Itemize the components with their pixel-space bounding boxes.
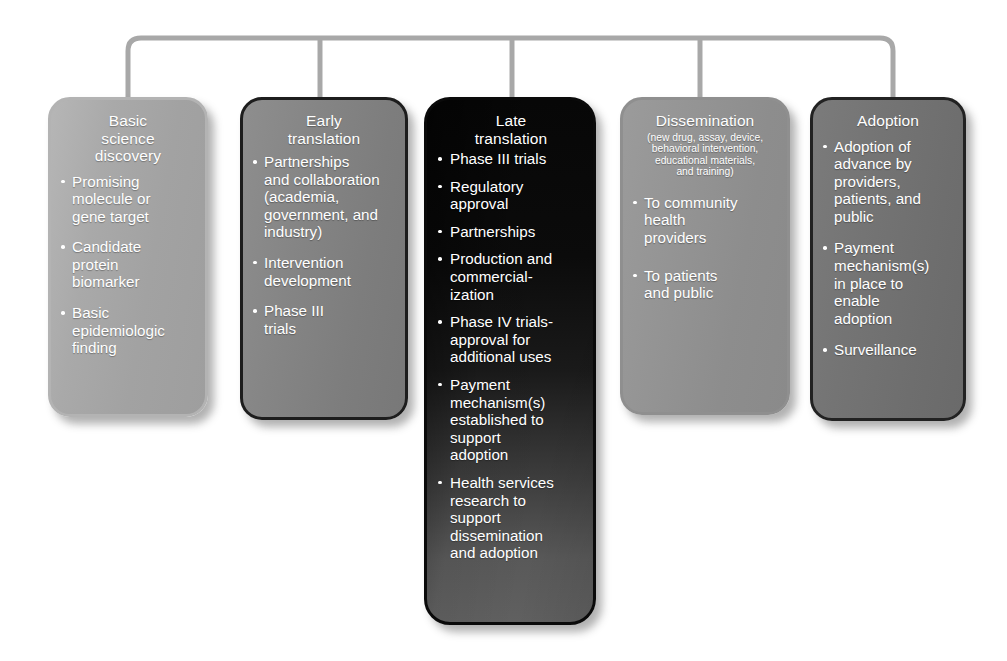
stage-box-late-translation[interactable]: Latetranslation Phase III trials Regulat… [424, 97, 596, 625]
list-item: Paymentmechanism(s)established tosupport… [437, 376, 585, 464]
bullet-dot-icon [438, 185, 442, 189]
list-item: To patientsand public [632, 267, 778, 302]
bullet-text: To communityhealthproviders [644, 194, 738, 246]
stage-title-basic: Basicsciencediscovery [60, 112, 196, 165]
bullet-dot-icon [823, 348, 827, 352]
bullet-dot-icon [823, 145, 827, 149]
diagram-canvas: Basicsciencediscovery Promisingmolecule … [0, 0, 1007, 661]
stage-box-early-translation[interactable]: Earlytranslation Partnershipsand collabo… [240, 97, 408, 420]
list-item: Partnerships [437, 223, 585, 241]
stage-bullets-adoption: Adoption ofadvance byproviders,patients,… [822, 138, 954, 360]
bullet-dot-icon [438, 230, 442, 234]
stage-bullets-dissemination: To communityhealthproviders To patientsa… [632, 194, 778, 302]
list-item: Candidateproteinbiomarker [60, 238, 196, 291]
bullet-dot-icon [438, 320, 442, 324]
stage-box-adoption[interactable]: Adoption Adoption ofadvance byproviders,… [810, 97, 966, 421]
list-item: Surveillance [822, 341, 954, 359]
list-item: Production andcommercial-ization [437, 250, 585, 303]
stage-box-basic-science-discovery[interactable]: Basicsciencediscovery Promisingmolecule … [48, 97, 208, 417]
stage-bullets-basic: Promisingmolecule orgene target Candidat… [60, 173, 196, 357]
bullet-dot-icon [633, 201, 637, 205]
list-item: Promisingmolecule orgene target [60, 173, 196, 226]
stage-box-dissemination[interactable]: Dissemination (new drug, assay, device,b… [620, 97, 790, 415]
list-item: Regulatoryapproval [437, 178, 585, 213]
bullet-dot-icon [823, 246, 827, 250]
bracket-path [128, 38, 893, 97]
bullet-text: Regulatoryapproval [450, 178, 523, 213]
bullet-dot-icon [438, 481, 442, 485]
bullet-dot-icon [61, 180, 65, 184]
list-item: Partnershipsand collaboration(academia,g… [252, 153, 396, 241]
bullet-text: Candidateproteinbiomarker [72, 238, 141, 290]
list-item: Phase III trials [437, 150, 585, 168]
stage-title-adoption: Adoption [822, 112, 954, 130]
bullet-dot-icon [253, 309, 257, 313]
stage-bullets-early: Partnershipsand collaboration(academia,g… [252, 153, 396, 337]
bullet-text: To patientsand public [644, 267, 717, 302]
bullet-dot-icon [253, 261, 257, 265]
bullet-text: Paymentmechanism(s)in place toenableadop… [834, 239, 929, 326]
list-item: To communityhealthproviders [632, 194, 778, 247]
stage-title-dissemination: Dissemination [632, 112, 778, 130]
list-item: Interventiondevelopment [252, 254, 396, 289]
bullet-text: Partnerships [450, 223, 535, 240]
bullet-dot-icon [253, 160, 257, 164]
bullet-text: Phase III trials [450, 150, 546, 167]
bullet-text: Paymentmechanism(s)established tosupport… [450, 376, 545, 463]
list-item: Basicepidemiologicfinding [60, 304, 196, 357]
bullet-dot-icon [438, 157, 442, 161]
stage-title-late: Latetranslation [437, 112, 585, 147]
list-item: Paymentmechanism(s)in place toenableadop… [822, 239, 954, 327]
bullet-text: Partnershipsand collaboration(academia,g… [264, 153, 380, 240]
bullet-text: Interventiondevelopment [264, 254, 351, 289]
list-item: Health servicesresearch tosupportdissemi… [437, 474, 585, 562]
stage-subtitle-dissemination: (new drug, assay, device,behavioral inte… [634, 132, 776, 178]
bullet-text: Health servicesresearch tosupportdissemi… [450, 474, 554, 561]
bullet-text: Adoption ofadvance byproviders,patients,… [834, 138, 921, 225]
bullet-text: Promisingmolecule orgene target [72, 173, 151, 225]
list-item: Phase IV trials-approval foradditional u… [437, 313, 585, 366]
bullet-dot-icon [61, 245, 65, 249]
bullet-text: Phase IV trials-approval foradditional u… [450, 313, 553, 365]
bullet-text: Basicepidemiologicfinding [72, 304, 165, 356]
bullet-text: Surveillance [834, 341, 917, 358]
bullet-dot-icon [438, 383, 442, 387]
list-item: Phase IIItrials [252, 302, 396, 337]
bullet-dot-icon [633, 274, 637, 278]
bullet-text: Production andcommercial-ization [450, 250, 552, 302]
bullet-dot-icon [438, 257, 442, 261]
stage-title-early: Earlytranslation [252, 112, 396, 147]
list-item: Adoption ofadvance byproviders,patients,… [822, 138, 954, 226]
bullet-text: Phase IIItrials [264, 302, 324, 337]
bullet-dot-icon [61, 311, 65, 315]
stage-bullets-late: Phase III trials Regulatoryapproval Part… [437, 150, 585, 562]
